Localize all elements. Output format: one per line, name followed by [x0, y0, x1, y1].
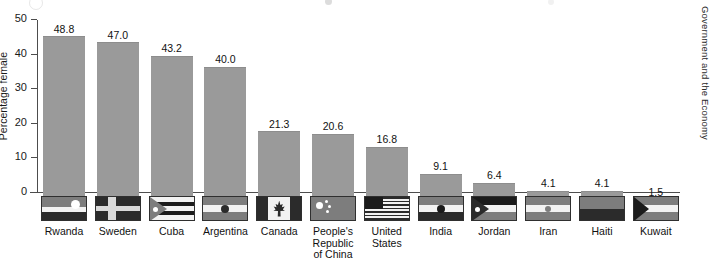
cross-vertical — [108, 197, 116, 220]
india-flag — [418, 196, 464, 221]
x-axis-category[interactable]: Canada — [252, 196, 306, 238]
x-axis-category[interactable]: India — [414, 196, 468, 238]
running-head: Government and the Economy — [697, 6, 713, 202]
x-axis-category-label-line: Argentina — [198, 226, 252, 238]
y-axis-tick-label: 0 — [3, 186, 27, 197]
kuwait-flag — [633, 196, 679, 221]
x-axis-category-label-line: Iran — [521, 226, 575, 238]
canada-flag — [256, 196, 302, 221]
band — [290, 197, 301, 220]
band — [419, 212, 463, 220]
band — [580, 209, 624, 221]
x-axis-category[interactable]: UnitedStates — [360, 196, 414, 249]
plot-area: 48.847.043.240.021.320.616.89.16.44.14.1… — [37, 14, 674, 192]
band — [203, 212, 247, 220]
y-axis-tick-label: 50 — [3, 13, 27, 24]
bar-column[interactable]: 1.5 — [635, 33, 677, 206]
china-flag — [310, 196, 356, 221]
x-axis-category-label: UnitedStates — [360, 226, 414, 249]
band — [257, 197, 268, 220]
x-axis-category[interactable]: Kuwait — [629, 196, 683, 238]
rwanda-flag — [41, 196, 87, 221]
bar-column[interactable]: 4.1 — [581, 33, 623, 206]
x-axis-category-label-line: Haiti — [575, 226, 629, 238]
bar-column[interactable]: 21.3 — [258, 33, 300, 206]
x-axis-category-label-line: India — [414, 226, 468, 238]
star — [153, 207, 158, 212]
bar[interactable] — [97, 42, 139, 206]
bar-value-label: 21.3 — [250, 119, 308, 130]
y-axis-tick-label: 20 — [3, 117, 27, 128]
sun — [71, 200, 80, 209]
x-axis-category[interactable]: Cuba — [145, 196, 199, 238]
x-axis-category-label: Cuba — [145, 226, 199, 238]
bar[interactable] — [204, 67, 246, 206]
x-axis-category-label: People'sRepublicof China — [306, 226, 360, 261]
x-axis-category[interactable]: Sweden — [91, 196, 145, 238]
x-axis-category-label: Sweden — [91, 226, 145, 238]
emblem — [545, 206, 551, 212]
scan-artifact — [548, 0, 554, 5]
bar-column[interactable]: 48.8 — [43, 33, 85, 206]
x-axis-category[interactable]: Iran — [521, 196, 575, 238]
band — [203, 197, 247, 205]
sun — [221, 205, 229, 213]
bar-value-label: 20.6 — [304, 121, 362, 132]
iran-flag — [525, 196, 571, 221]
bar-column[interactable]: 40.0 — [204, 33, 246, 206]
bar-value-label: 43.2 — [143, 43, 201, 54]
running-head-text: Government and the Economy — [700, 6, 710, 140]
band — [419, 197, 463, 205]
argentina-flag — [202, 196, 248, 221]
bar-column[interactable]: 47.0 — [97, 33, 139, 206]
bar-value-label: 9.1 — [412, 161, 470, 172]
bar-value-label: 4.1 — [519, 178, 577, 189]
bar-column[interactable]: 4.1 — [527, 33, 569, 206]
x-axis-category[interactable]: Haiti — [575, 196, 629, 238]
x-axis-category[interactable]: Argentina — [198, 196, 252, 238]
y-axis-title: Percentage female — [0, 52, 12, 162]
scan-artifact — [29, 0, 43, 10]
bar[interactable] — [151, 56, 193, 206]
bar-value-label: 6.4 — [465, 170, 523, 181]
bar-column[interactable]: 6.4 — [473, 33, 515, 206]
bar[interactable] — [258, 131, 300, 206]
y-axis-tick-label: 10 — [3, 151, 27, 162]
x-axis-category-label-line: Jordan — [467, 226, 521, 238]
sweden-flag — [95, 196, 141, 221]
bar-column[interactable]: 20.6 — [312, 33, 354, 206]
x-axis-category-label-line: Rwanda — [37, 226, 91, 238]
x-axis-category-label: Jordan — [467, 226, 521, 238]
x-axis-category-label-line: States — [360, 238, 414, 250]
x-axis-category-label-line: Sweden — [91, 226, 145, 238]
x-axis-category[interactable]: People'sRepublicof China — [306, 196, 360, 261]
bar-value-label: 48.8 — [35, 24, 93, 35]
x-axis-category[interactable]: Rwanda — [37, 196, 91, 238]
x-axis-category-label-line: Kuwait — [629, 226, 683, 238]
bar-column[interactable]: 9.1 — [420, 33, 462, 206]
x-axis-category-label: Iran — [521, 226, 575, 238]
x-axis-categories: RwandaSwedenCubaArgentinaCanadaPeople'sR… — [37, 196, 687, 272]
x-axis-category[interactable]: Jordan — [467, 196, 521, 238]
cross-horizontal — [96, 206, 140, 211]
big-star — [316, 202, 323, 209]
band — [580, 197, 624, 209]
bar-column[interactable]: 43.2 — [151, 33, 193, 206]
band — [42, 212, 86, 220]
bar-chart-figure: Government and the Economy Percentage fe… — [0, 0, 715, 272]
x-axis-category-label: Canada — [252, 226, 306, 238]
bar-value-label: 47.0 — [89, 30, 147, 41]
band — [526, 212, 570, 220]
x-axis-category-label: Kuwait — [629, 226, 683, 238]
x-axis-category-label: Haiti — [575, 226, 629, 238]
band — [526, 197, 570, 205]
hoist-trapezoid — [634, 197, 649, 221]
bar-column[interactable]: 16.8 — [366, 33, 408, 206]
chakra — [437, 205, 445, 213]
y-axis-tick — [31, 192, 37, 193]
x-axis-category-label: India — [414, 226, 468, 238]
small-star — [326, 210, 329, 213]
x-axis-category-label-line: Cuba — [145, 226, 199, 238]
bar-value-label: 16.8 — [358, 134, 416, 145]
bar[interactable] — [43, 36, 85, 206]
